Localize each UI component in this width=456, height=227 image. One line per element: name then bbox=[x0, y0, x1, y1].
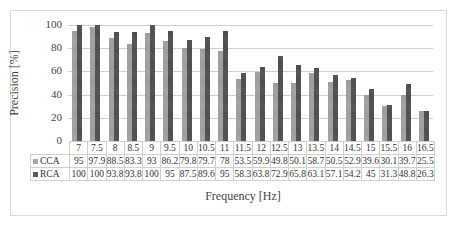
data-cell: 65.8 bbox=[289, 168, 307, 181]
gridline bbox=[68, 95, 433, 96]
data-table: 77.588.599.51010.51111.51212.51313.51414… bbox=[30, 141, 435, 181]
x-tick-label: 15.5 bbox=[380, 142, 398, 155]
data-cell: 58.7 bbox=[307, 155, 325, 168]
bar-rca bbox=[369, 89, 374, 141]
data-cell: 78 bbox=[216, 155, 234, 168]
data-cell: 93 bbox=[143, 155, 161, 168]
bar-rca bbox=[77, 25, 82, 141]
bar-rca bbox=[187, 40, 192, 142]
data-cell: 95 bbox=[216, 168, 234, 181]
data-cell: 93.8 bbox=[106, 168, 124, 181]
data-cell: 25.5 bbox=[416, 155, 434, 168]
y-tick-label: 20 bbox=[36, 111, 62, 123]
bar-rca bbox=[241, 73, 246, 141]
y-tick-label: 40 bbox=[36, 88, 62, 100]
x-tick-label: 8 bbox=[106, 142, 124, 155]
x-tick-label: 7.5 bbox=[88, 142, 106, 155]
data-cell: 63.1 bbox=[307, 168, 325, 181]
y-tick-label: 60 bbox=[36, 64, 62, 76]
x-tick-label: 16.5 bbox=[416, 142, 434, 155]
x-tick-label: 16 bbox=[398, 142, 416, 155]
x-tick-label: 10.5 bbox=[197, 142, 215, 155]
bar-rca bbox=[150, 25, 155, 141]
x-tick-label: 14 bbox=[325, 142, 343, 155]
data-cell: 50.5 bbox=[325, 155, 343, 168]
gridline bbox=[68, 118, 433, 119]
data-cell: 83.3 bbox=[124, 155, 142, 168]
data-cell: 86.2 bbox=[161, 155, 179, 168]
x-tick-label: 10 bbox=[179, 142, 197, 155]
data-cell: 79.8 bbox=[179, 155, 197, 168]
x-tick-label: 11.5 bbox=[234, 142, 252, 155]
data-cell: 79.7 bbox=[197, 155, 215, 168]
plot-area bbox=[68, 25, 433, 141]
legend-entry: CCA bbox=[31, 155, 70, 168]
x-axis-label: Frequency [Hz] bbox=[0, 189, 456, 204]
data-cell: 87.5 bbox=[179, 168, 197, 181]
x-tick-label: 9 bbox=[143, 142, 161, 155]
x-tick-label: 7 bbox=[70, 142, 88, 155]
data-cell: 39.7 bbox=[398, 155, 416, 168]
x-tick-label: 11 bbox=[216, 142, 234, 155]
data-cell: 50.1 bbox=[289, 155, 307, 168]
gridline bbox=[68, 48, 433, 49]
data-cell: 72.9 bbox=[270, 168, 288, 181]
y-tick-label: 100 bbox=[36, 18, 62, 30]
bar-rca bbox=[406, 84, 411, 141]
data-cell: 30.1 bbox=[380, 155, 398, 168]
gridline bbox=[68, 25, 433, 26]
data-cell: 52.9 bbox=[343, 155, 361, 168]
data-cell: 95 bbox=[70, 155, 88, 168]
data-cell: 49.8 bbox=[270, 155, 288, 168]
y-tick-label: 80 bbox=[36, 41, 62, 53]
data-cell: 53.5 bbox=[234, 155, 252, 168]
bar-rca bbox=[132, 32, 137, 141]
x-tick-label: 12.5 bbox=[270, 142, 288, 155]
bar-rca bbox=[95, 25, 100, 141]
data-table-row: RCA10010093.893.81009587.589.69558.363.8… bbox=[31, 168, 435, 181]
legend-swatch-icon bbox=[33, 159, 38, 164]
data-cell: 48.8 bbox=[398, 168, 416, 181]
bar-rca bbox=[114, 32, 119, 141]
data-cell: 97.9 bbox=[88, 155, 106, 168]
data-table-row: CCA9597.988.583.39386.279.879.77853.559.… bbox=[31, 155, 435, 168]
data-cell: 39.6 bbox=[362, 155, 380, 168]
data-cell: 57.1 bbox=[325, 168, 343, 181]
bar-rca bbox=[260, 67, 265, 141]
gridline bbox=[68, 71, 433, 72]
bar-rca bbox=[205, 37, 210, 141]
x-tick-label: 15 bbox=[362, 142, 380, 155]
legend-entry: RCA bbox=[31, 168, 70, 181]
bar-rca bbox=[387, 105, 392, 141]
x-tick-label: 14.5 bbox=[343, 142, 361, 155]
data-cell: 93.8 bbox=[124, 168, 142, 181]
data-cell: 54.2 bbox=[343, 168, 361, 181]
bar-rca bbox=[168, 31, 173, 141]
x-tick-label: 8.5 bbox=[124, 142, 142, 155]
data-cell: 63.8 bbox=[252, 168, 270, 181]
bar-rca bbox=[424, 111, 429, 142]
x-tick-label: 9.5 bbox=[161, 142, 179, 155]
data-cell: 88.5 bbox=[106, 155, 124, 168]
x-tick-label: 12 bbox=[252, 142, 270, 155]
data-cell: 95 bbox=[161, 168, 179, 181]
bar-rca bbox=[333, 75, 338, 141]
data-cell: 26.3 bbox=[416, 168, 434, 181]
data-cell: 31.3 bbox=[380, 168, 398, 181]
data-cell: 100 bbox=[88, 168, 106, 181]
data-cell: 58.3 bbox=[234, 168, 252, 181]
data-cell: 45 bbox=[362, 168, 380, 181]
x-tick-label: 13 bbox=[289, 142, 307, 155]
data-cell: 89.6 bbox=[197, 168, 215, 181]
bar-rca bbox=[278, 56, 283, 141]
data-cell: 59.9 bbox=[252, 155, 270, 168]
bar-rca bbox=[314, 68, 319, 141]
bar-rca bbox=[223, 31, 228, 141]
data-cell: 100 bbox=[70, 168, 88, 181]
data-cell: 100 bbox=[143, 168, 161, 181]
x-tick-label: 13.5 bbox=[307, 142, 325, 155]
bar-rca bbox=[296, 65, 301, 141]
legend-swatch-icon bbox=[33, 172, 38, 177]
bar-rca bbox=[351, 78, 356, 141]
